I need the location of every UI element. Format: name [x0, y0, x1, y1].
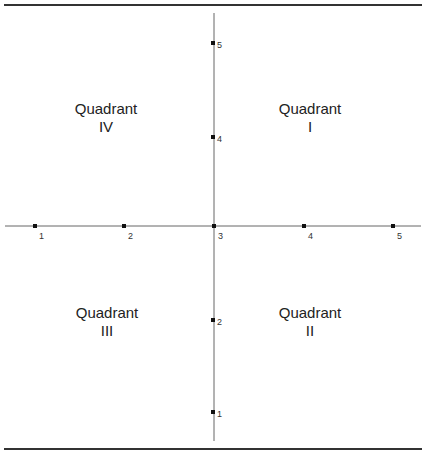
- quadrant-ii-numeral: II: [260, 322, 360, 340]
- quadrant-ii-label: Quadrant II: [260, 304, 360, 340]
- quadrant-iii-numeral: III: [57, 322, 157, 340]
- y-tick-label: 5: [217, 40, 222, 50]
- y-tick-label: 1: [217, 409, 222, 419]
- quadrant-diagram: 123451245: [0, 0, 428, 454]
- x-tick-label: 1: [39, 231, 44, 241]
- y-tick-label: 4: [217, 134, 222, 144]
- x-tick-marker: [212, 224, 216, 228]
- x-tick-marker: [122, 224, 126, 228]
- quadrant-i-title: Quadrant: [260, 100, 360, 118]
- y-tick-marker: [211, 41, 215, 45]
- x-tick-label: 4: [308, 231, 313, 241]
- quadrant-iii-label: Quadrant III: [57, 304, 157, 340]
- quadrant-i-label: Quadrant I: [260, 100, 360, 136]
- quadrant-ii-title: Quadrant: [260, 304, 360, 322]
- x-tick-label: 2: [128, 231, 133, 241]
- quadrant-iv-title: Quadrant: [56, 100, 156, 118]
- x-tick-marker: [391, 224, 395, 228]
- y-tick-marker: [211, 135, 215, 139]
- x-tick-label: 3: [218, 231, 223, 241]
- y-tick-marker: [211, 318, 215, 322]
- x-tick-marker: [33, 224, 37, 228]
- quadrant-i-numeral: I: [260, 118, 360, 136]
- y-tick-marker: [211, 410, 215, 414]
- x-tick-marker: [302, 224, 306, 228]
- quadrant-iii-title: Quadrant: [57, 304, 157, 322]
- x-tick-label: 5: [397, 231, 402, 241]
- quadrant-iv-numeral: IV: [56, 118, 156, 136]
- y-tick-label: 2: [217, 317, 222, 327]
- quadrant-iv-label: Quadrant IV: [56, 100, 156, 136]
